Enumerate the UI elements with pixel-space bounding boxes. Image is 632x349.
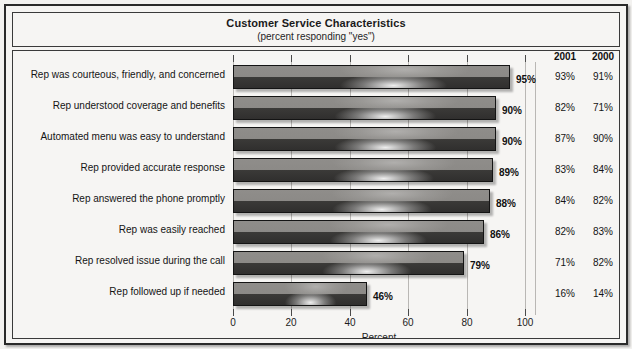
- chart-row: Rep provided accurate response89%83%84%: [13, 155, 620, 186]
- bar-highlight: [234, 139, 495, 150]
- bar-highlight: [234, 294, 366, 305]
- category-label: Rep answered the phone promptly: [13, 193, 225, 204]
- bar-value-label: 86%: [490, 229, 510, 240]
- table-cell-2001: 71%: [548, 257, 582, 268]
- bar-value-label: 90%: [502, 136, 522, 147]
- table-cell-2000: 84%: [586, 164, 620, 175]
- bar-highlight: [234, 201, 489, 212]
- bar-top-sheen: [234, 97, 495, 109]
- tick-mark-bottom: [291, 309, 292, 316]
- bar-value-label: 79%: [470, 260, 490, 271]
- bar-highlight: [234, 263, 463, 274]
- tick-mark-top: [350, 55, 351, 62]
- x-axis-title: Percent: [233, 332, 525, 339]
- x-axis-tick-label: 60: [402, 317, 413, 328]
- table-cell-2001: 83%: [548, 164, 582, 175]
- column-header-2001: 2001: [548, 51, 582, 62]
- x-axis-tick-label: 40: [344, 317, 355, 328]
- table-cell-2000: 82%: [586, 257, 620, 268]
- bar-top-sheen: [234, 252, 463, 264]
- bar-highlight: [234, 77, 509, 88]
- bar: [233, 127, 496, 151]
- bar-value-label: 88%: [496, 198, 516, 209]
- table-cell-2000: 90%: [586, 133, 620, 144]
- chart-title: Customer Service Characteristics: [226, 17, 405, 30]
- bar: [233, 158, 493, 182]
- chart-title-box: Customer Service Characteristics (percen…: [12, 12, 620, 47]
- bar-top-sheen: [234, 159, 492, 171]
- x-axis-tick-label: 80: [461, 317, 472, 328]
- x-axis-tick-label: 0: [230, 317, 236, 328]
- category-label: Rep was courteous, friendly, and concern…: [13, 69, 225, 80]
- tick-mark-top: [233, 55, 234, 62]
- column-header-2000: 2000: [586, 51, 620, 62]
- tick-mark-top: [525, 55, 526, 62]
- table-cell-2001: 84%: [548, 195, 582, 206]
- bar: [233, 96, 496, 120]
- chart-screenshot: Customer Service Characteristics (percen…: [0, 0, 632, 349]
- table-cell-2001: 82%: [548, 102, 582, 113]
- tick-mark-bottom: [350, 309, 351, 316]
- x-axis-tick-label: 100: [517, 317, 534, 328]
- table-cell-2001: 87%: [548, 133, 582, 144]
- bar-top-sheen: [234, 221, 483, 233]
- category-label: Rep was easily reached: [13, 224, 225, 235]
- category-label: Rep followed up if needed: [13, 286, 225, 297]
- category-label: Rep resolved issue during the call: [13, 255, 225, 266]
- table-cell-2001: 82%: [548, 226, 582, 237]
- table-cell-2001: 93%: [548, 71, 582, 82]
- bar-top-sheen: [234, 128, 495, 140]
- bar-value-label: 90%: [502, 105, 522, 116]
- bar-highlight: [234, 232, 483, 243]
- bar: [233, 251, 464, 275]
- bar-highlight: [234, 108, 495, 119]
- table-cell-2000: 14%: [586, 288, 620, 299]
- category-label: Rep understood coverage and benefits: [13, 100, 225, 111]
- chart-row: Rep resolved issue during the call79%71%…: [13, 248, 620, 279]
- chart-plot-panel: 020406080100 Percent 2001 2000 Rep was c…: [12, 50, 620, 339]
- chart-row: Rep was courteous, friendly, and concern…: [13, 62, 620, 93]
- chart-outer-frame: Customer Service Characteristics (percen…: [4, 4, 628, 345]
- chart-row: Rep followed up if needed46%16%14%: [13, 279, 620, 310]
- chart-row: Rep understood coverage and benefits90%8…: [13, 93, 620, 124]
- bar-highlight: [234, 170, 492, 181]
- bar: [233, 65, 510, 89]
- category-label: Rep provided accurate response: [13, 162, 225, 173]
- tick-mark-bottom: [467, 309, 468, 316]
- table-cell-2000: 91%: [586, 71, 620, 82]
- bar-value-label: 46%: [373, 291, 393, 302]
- tick-mark-bottom: [408, 309, 409, 316]
- bar: [233, 282, 367, 306]
- bar-value-label: 89%: [499, 167, 519, 178]
- chart-row: Automated menu was easy to understand90%…: [13, 124, 620, 155]
- tick-mark-top: [408, 55, 409, 62]
- x-axis-tick-label: 20: [285, 317, 296, 328]
- table-cell-2000: 83%: [586, 226, 620, 237]
- bar: [233, 220, 484, 244]
- table-cell-2001: 16%: [548, 288, 582, 299]
- bar-top-sheen: [234, 190, 489, 202]
- chart-row: Rep answered the phone promptly88%84%82%: [13, 186, 620, 217]
- tick-mark-bottom: [525, 309, 526, 316]
- tick-mark-top: [291, 55, 292, 62]
- bar-value-label: 95%: [516, 74, 536, 85]
- chart-row: Rep was easily reached86%82%83%: [13, 217, 620, 248]
- bar-top-sheen: [234, 66, 509, 78]
- table-cell-2000: 71%: [586, 102, 620, 113]
- bar-top-sheen: [234, 283, 366, 295]
- tick-mark-top: [467, 55, 468, 62]
- category-label: Automated menu was easy to understand: [13, 131, 225, 142]
- table-cell-2000: 82%: [586, 195, 620, 206]
- bar: [233, 189, 490, 213]
- chart-subtitle: (percent responding "yes"): [257, 30, 375, 43]
- tick-mark-bottom: [233, 309, 234, 316]
